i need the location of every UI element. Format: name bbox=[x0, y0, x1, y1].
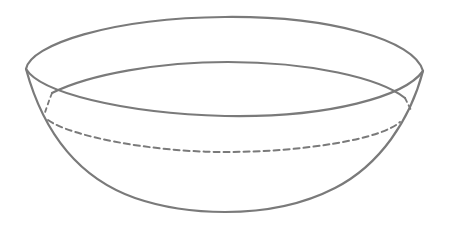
bowl-body bbox=[26, 69, 423, 212]
hidden-rim-left bbox=[44, 93, 52, 115]
hidden-level-line bbox=[48, 120, 400, 152]
bowl-drawing bbox=[0, 0, 451, 231]
bowl-diagram bbox=[0, 0, 451, 231]
front-rim bbox=[26, 69, 423, 116]
inner-rim-back bbox=[52, 62, 405, 98]
